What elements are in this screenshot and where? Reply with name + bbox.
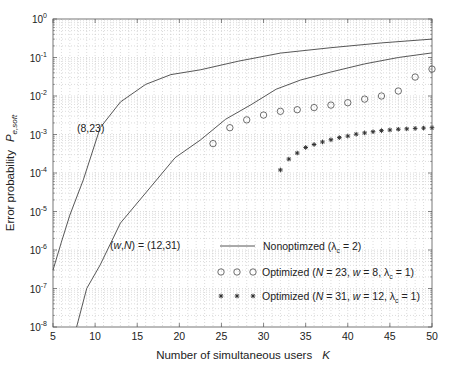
star-marker xyxy=(371,129,376,134)
x-tick-label: 50 xyxy=(426,330,438,342)
y-tick-label: 10-4 xyxy=(30,166,47,179)
x-tick-label: 15 xyxy=(131,330,143,342)
x-tick-label: 30 xyxy=(258,330,270,342)
star-marker xyxy=(287,157,292,162)
star-marker xyxy=(219,294,224,299)
legend-entry-1: Optimized (N = 23, w = 8, λc = 1) xyxy=(218,266,414,280)
y-tick-label: 10-5 xyxy=(30,205,47,218)
circle-marker xyxy=(361,96,367,102)
x-tick-label: 25 xyxy=(216,330,228,342)
annotation-0: (8,23) xyxy=(77,122,104,134)
data-series xyxy=(53,39,435,327)
y-tick-label: 100 xyxy=(32,12,47,25)
circle-marker xyxy=(244,117,250,123)
annotation-1: (w,N) = (12,31) xyxy=(110,239,180,251)
x-tick-label: 10 xyxy=(89,330,101,342)
circle-marker xyxy=(234,269,240,275)
star-marker xyxy=(235,294,240,299)
y-tick-label: 10-8 xyxy=(30,320,47,333)
x-tick-label: 5 xyxy=(50,330,56,342)
y-tick-label: 10-1 xyxy=(30,51,47,64)
x-tick-label: 20 xyxy=(173,330,185,342)
legend-label: Optimized (N = 23, w = 8, λc = 1) xyxy=(262,266,414,280)
star-marker xyxy=(312,142,317,147)
star-marker xyxy=(251,294,256,299)
star-marker xyxy=(379,128,384,133)
x-axis-label: Number of simultaneous usersK xyxy=(156,349,331,361)
star-marker xyxy=(329,137,334,142)
y-tick-label: 10-3 xyxy=(30,128,47,141)
circle-marker xyxy=(218,269,224,275)
y-tick-label: 10-6 xyxy=(30,243,47,256)
x-tick-label: 45 xyxy=(384,330,396,342)
star-marker xyxy=(404,127,409,132)
star-marker xyxy=(388,128,393,133)
y-tick-label: 10-7 xyxy=(30,282,47,295)
grid-lines xyxy=(53,19,432,327)
star-marker xyxy=(320,140,325,145)
error-probability-chart: 510152025303540455010010-110-210-310-410… xyxy=(0,0,450,366)
star-marker xyxy=(295,151,300,156)
star-marker xyxy=(303,145,308,150)
star-marker xyxy=(421,126,426,131)
y-axis-label: Error probabilityPe,soft xyxy=(4,114,19,231)
x-tick-label: 40 xyxy=(342,330,354,342)
x-tick-label: 35 xyxy=(300,330,312,342)
star-marker xyxy=(396,127,401,132)
legend-entry-0: Nonoptimzed (λc = 2) xyxy=(220,240,361,254)
star-marker xyxy=(362,131,367,136)
star-marker xyxy=(337,135,342,140)
legend-label: Nonoptimzed (λc = 2) xyxy=(263,240,361,254)
y-tick-label: 10-2 xyxy=(30,89,47,102)
legend-label: Optimized (N = 31, w = 12, λc = 1) xyxy=(262,290,420,304)
star-marker xyxy=(345,134,350,139)
star-marker xyxy=(278,168,283,173)
circle-marker xyxy=(328,102,334,108)
star-marker xyxy=(354,132,359,137)
star-marker xyxy=(413,126,418,131)
